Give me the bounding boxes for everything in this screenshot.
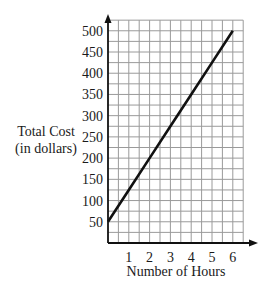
y-tick-label: 50 — [89, 215, 103, 230]
x-tick-label: 3 — [167, 250, 174, 265]
x-tick-label: 1 — [125, 250, 132, 265]
y-axis-arrow-icon — [105, 14, 112, 23]
y-tick-label: 100 — [82, 194, 103, 209]
y-axis-label-line-2: (in dollars) — [15, 141, 77, 157]
x-tick-label: 2 — [146, 250, 153, 265]
y-tick-label: 400 — [82, 66, 103, 81]
y-tick-label: 150 — [82, 172, 103, 187]
y-tick-label: 250 — [82, 130, 103, 145]
y-axis-label-line-1: Total Cost — [17, 124, 75, 139]
y-tick-label: 200 — [82, 151, 103, 166]
x-tick-label: 5 — [209, 250, 216, 265]
x-axis-arrow-icon — [249, 240, 258, 247]
y-tick-labels: 50100150200250300350400450500 — [82, 24, 103, 230]
x-tick-label: 6 — [229, 250, 236, 265]
x-axis-label: Number of Hours — [127, 264, 226, 279]
grid-lines — [108, 20, 243, 243]
y-tick-label: 500 — [82, 24, 103, 39]
y-tick-label: 300 — [82, 109, 103, 124]
y-tick-label: 350 — [82, 87, 103, 102]
cost-vs-hours-chart: 50100150200250300350400450500 123456 Tot… — [0, 0, 272, 293]
x-tick-label: 4 — [188, 250, 195, 265]
x-tick-labels: 123456 — [125, 250, 236, 265]
y-tick-label: 450 — [82, 45, 103, 60]
